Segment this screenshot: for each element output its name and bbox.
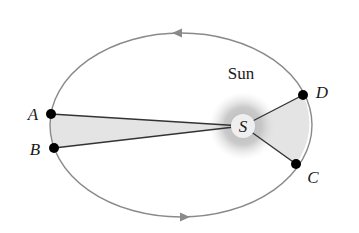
arrow-top-icon <box>172 29 182 38</box>
arrow-bottom-icon <box>180 213 190 222</box>
orbit-diagram: Sun S A B C D <box>0 0 359 233</box>
point-a-label: A <box>27 105 39 124</box>
point-a <box>46 109 56 119</box>
focus-label: S <box>239 117 248 136</box>
point-b <box>49 143 59 153</box>
point-c <box>291 159 301 169</box>
point-c-label: C <box>307 168 319 187</box>
point-d <box>298 90 308 100</box>
point-b-label: B <box>30 140 41 159</box>
point-d-label: D <box>315 83 329 102</box>
sun-label: Sun <box>228 64 255 83</box>
